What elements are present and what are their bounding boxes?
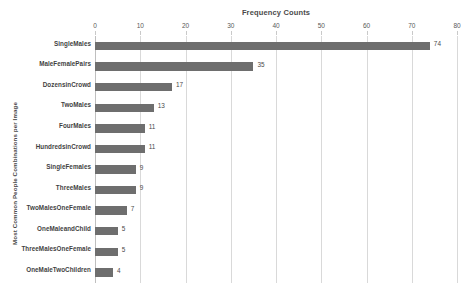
bar-row: 13TwoMales [95,98,457,119]
bar-row: 11HundredsinCrowd [95,139,457,160]
bar-row: 11FourMales [95,118,457,139]
bar-row: 17DozensinCrowd [95,77,457,98]
frequency-counts-bar-chart: Frequency Counts Most Common People Comb… [0,0,470,302]
bar-row: 4OneMaleTwoChildren [95,262,457,283]
y-category-label-ThreeMales: ThreeMales [3,184,91,191]
y-category-label-SingleMales: SingleMales [3,40,91,47]
bar-value-SingleMales: 74 [434,40,441,47]
chart-title: Frequency Counts [95,8,457,17]
bar-value-OneMaleandChild: 5 [122,225,126,232]
bar-value-TwoMalesOneFemale: 7 [131,205,135,212]
y-category-label-HundredsinCrowd: HundredsinCrowd [3,143,91,150]
bar-row: 7TwoMalesOneFemale [95,201,457,222]
bar-ThreeMalesOneFemale [95,248,118,256]
x-tick-label-70: 70 [408,22,415,29]
bar-SingleMales [95,42,430,50]
bar-value-HundredsinCrowd: 11 [149,143,156,150]
bar-OneMaleTwoChildren [95,268,113,276]
x-tick-mark-40 [276,31,277,35]
x-tick-label-10: 10 [137,22,144,29]
bar-OneMaleandChild [95,227,118,235]
bar-value-ThreeMales: 9 [140,184,144,191]
x-tick-label-60: 60 [363,22,370,29]
y-category-label-MaleFemalePairs: MaleFemalePairs [3,60,91,67]
y-axis-title: Most Common People Combinations per Imag… [11,84,18,264]
y-category-label-ThreeMalesOneFemale: ThreeMalesOneFemale [3,245,91,252]
bar-row: 74SingleMales [95,36,457,57]
bar-row: 9ThreeMales [95,180,457,201]
x-tick-mark-10 [140,31,141,35]
bar-TwoMales [95,104,154,112]
y-category-label-DozensinCrowd: DozensinCrowd [3,81,91,88]
bar-row: 9SingleFemales [95,160,457,181]
x-tick-mark-70 [412,31,413,35]
x-tick-mark-0 [95,31,96,35]
y-category-label-FourMales: FourMales [3,122,91,129]
plot-area: 0102030405060708074SingleMales35MaleFema… [95,36,457,283]
x-tick-label-30: 30 [227,22,234,29]
bar-FourMales [95,124,145,132]
bar-row: 35MaleFemalePairs [95,57,457,78]
bar-value-OneMaleTwoChildren: 4 [117,267,121,274]
bar-DozensinCrowd [95,83,172,91]
bar-ThreeMales [95,186,136,194]
bar-value-MaleFemalePairs: 35 [257,61,264,68]
y-category-label-TwoMales: TwoMales [3,101,91,108]
y-category-label-OneMaleandChild: OneMaleandChild [3,225,91,232]
x-tick-label-20: 20 [182,22,189,29]
x-tick-label-40: 40 [272,22,279,29]
x-tick-mark-50 [321,31,322,35]
bar-value-FourMales: 11 [149,123,156,130]
y-category-label-TwoMalesOneFemale: TwoMalesOneFemale [3,204,91,211]
y-category-label-SingleFemales: SingleFemales [3,163,91,170]
bar-value-DozensinCrowd: 17 [176,81,183,88]
bar-row: 5ThreeMalesOneFemale [95,242,457,263]
bar-row: 5OneMaleandChild [95,221,457,242]
x-tick-mark-30 [231,31,232,35]
x-tick-label-50: 50 [318,22,325,29]
x-tick-label-80: 80 [453,22,460,29]
x-tick-mark-60 [367,31,368,35]
bar-value-TwoMales: 13 [158,102,165,109]
bar-HundredsinCrowd [95,145,145,153]
bar-value-SingleFemales: 9 [140,164,144,171]
bar-value-ThreeMalesOneFemale: 5 [122,246,126,253]
bar-MaleFemalePairs [95,62,253,70]
x-tick-mark-20 [186,31,187,35]
x-tick-mark-80 [457,31,458,35]
x-tick-label-0: 0 [93,22,97,29]
y-category-label-OneMaleTwoChildren: OneMaleTwoChildren [3,266,91,273]
bar-SingleFemales [95,165,136,173]
bar-TwoMalesOneFemale [95,206,127,214]
gridline-80 [457,36,458,283]
